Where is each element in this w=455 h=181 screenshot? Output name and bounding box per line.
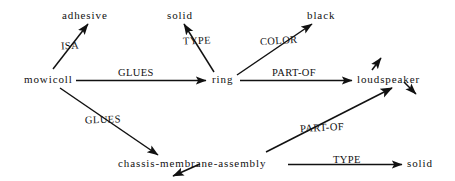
edge-label-type-solid-top: TYPE xyxy=(183,36,211,47)
node-loudspeaker[interactable]: loudspeaker xyxy=(357,74,420,85)
edge-label-glues-ring: GLUES xyxy=(118,68,154,79)
node-adhesive[interactable]: adhesive xyxy=(62,10,108,21)
node-solid-top[interactable]: solid xyxy=(167,10,193,21)
stray-arrow-up-right-icon xyxy=(372,58,381,70)
edge-partof-chassis-line xyxy=(266,88,392,152)
edge-label-isa: ISA xyxy=(61,41,80,52)
node-chassis-membrane-assembly[interactable]: chassis-membrane-assembly xyxy=(118,158,266,169)
node-mowicoll[interactable]: mowicoll xyxy=(24,74,73,85)
node-ring[interactable]: ring xyxy=(212,74,233,85)
edge-label-glues-chassis: GLUES xyxy=(85,114,121,126)
diagram-canvas: adhesive solid black mowicoll ring louds… xyxy=(0,0,455,181)
edge-layer xyxy=(0,0,455,181)
edge-label-partof-ring: PART-OF xyxy=(272,68,316,79)
edge-type-solid-top-line xyxy=(184,24,214,72)
node-solid-bottom[interactable]: solid xyxy=(407,158,433,169)
edge-label-type-solid-bottom: TYPE xyxy=(333,155,361,166)
node-black[interactable]: black xyxy=(307,10,335,21)
